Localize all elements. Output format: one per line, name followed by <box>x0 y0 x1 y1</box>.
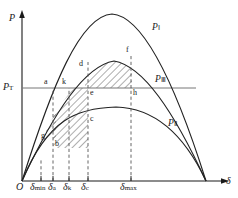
curve-label-P1: PⅠ <box>152 23 160 33</box>
xtick-label-da: δa <box>48 182 56 192</box>
curve-P1-sub: Ⅰ <box>158 24 160 32</box>
point-label-g: g <box>41 132 45 140</box>
point-label-f: f <box>126 46 129 54</box>
xtick-dmin-sub: min <box>35 184 46 192</box>
xtick-da-sub: a <box>53 184 56 192</box>
xtick-label-dk: δk <box>63 182 71 192</box>
curve-P2 <box>22 107 206 181</box>
point-label-b: b <box>55 140 59 148</box>
origin-label: O <box>16 182 23 192</box>
xtick-dmax-sub: max <box>125 184 137 192</box>
xtick-label-dc: δc <box>81 182 89 192</box>
point-label-d: d <box>79 60 83 68</box>
point-label-h: h <box>133 89 137 97</box>
diagram-canvas <box>0 0 238 198</box>
pt-sub: T <box>9 84 13 92</box>
power-angle-diagram: P δ O PT PⅠ PⅢ PⅡ δmin δa δk δc δmax a k… <box>0 0 238 198</box>
point-label-e: e <box>90 89 94 97</box>
curve-label-P2: PⅡ <box>168 119 177 129</box>
xtick-dk-sub: k <box>68 184 72 192</box>
point-label-a: a <box>44 78 48 86</box>
curve-P1 <box>22 14 206 181</box>
point-label-c: c <box>90 115 94 123</box>
curve-label-P3: PⅢ <box>155 75 166 85</box>
xtick-dc-sub: c <box>86 184 89 192</box>
curve-P2-sub: Ⅱ <box>174 120 177 128</box>
point-label-k: k <box>62 78 66 86</box>
x-axis-ticks <box>41 176 131 181</box>
xtick-label-dmin: δmin <box>30 182 46 192</box>
x-axis-label: δ <box>226 176 231 186</box>
y-axis-label: P <box>9 13 15 23</box>
curve-group <box>22 14 206 181</box>
xtick-label-dmax: δmax <box>120 182 137 192</box>
pt-threshold-label: PT <box>3 82 13 92</box>
curve-P3-sub: Ⅲ <box>161 76 166 84</box>
